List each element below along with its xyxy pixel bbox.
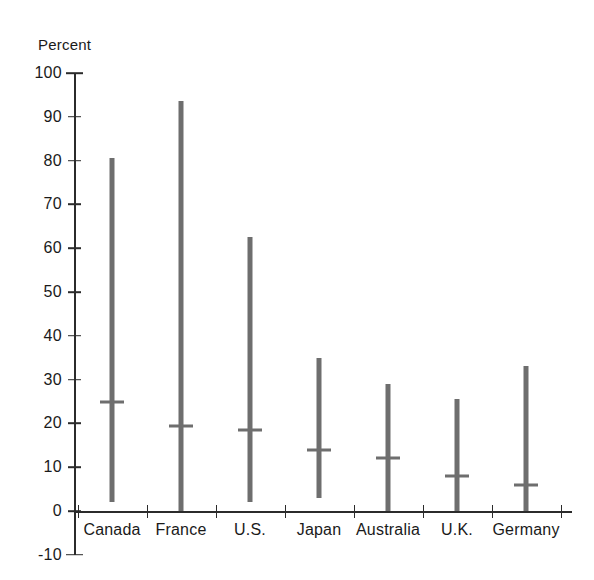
range-bar xyxy=(524,366,529,511)
range-bar xyxy=(386,384,391,511)
median-marker xyxy=(445,474,469,477)
x-axis-category-label: Japan xyxy=(297,521,342,539)
y-axis-tick-label: 10 xyxy=(16,458,62,476)
range-bar xyxy=(110,158,115,502)
x-axis-tick-mark xyxy=(354,505,356,518)
y-axis-tick-label: 40 xyxy=(16,327,62,345)
range-bar xyxy=(455,399,460,511)
y-axis-tick-label: 50 xyxy=(16,283,62,301)
y-axis-tick-mark xyxy=(68,466,81,468)
median-marker xyxy=(376,457,400,460)
x-axis-category-label: U.K. xyxy=(441,521,473,539)
y-axis-tick-mark xyxy=(66,554,83,556)
range-chart: Percent 1009080706050403020100-10 Canada… xyxy=(0,0,594,580)
y-axis-tick-mark xyxy=(66,72,83,74)
x-axis-category-label: Australia xyxy=(356,521,420,539)
range-bar xyxy=(248,237,253,502)
y-axis-tick-label: -10 xyxy=(16,546,62,564)
y-axis-tick-mark xyxy=(68,379,81,381)
range-bar xyxy=(179,101,184,511)
x-axis-tick-mark xyxy=(492,505,494,518)
x-axis-tick-mark xyxy=(423,505,425,518)
y-axis-tick-label: 90 xyxy=(16,108,62,126)
y-axis-tick-mark xyxy=(68,160,81,162)
y-axis-tick-label: 100 xyxy=(16,64,62,82)
y-axis-tick-mark xyxy=(68,204,81,206)
y-axis-tick-label: 60 xyxy=(16,239,62,257)
x-axis-tick-mark xyxy=(78,505,80,518)
y-axis-tick-label: 20 xyxy=(16,414,62,432)
y-axis-unit-label: Percent xyxy=(38,36,91,53)
median-marker xyxy=(238,428,262,431)
median-marker xyxy=(514,483,538,486)
x-axis-tick-mark xyxy=(561,505,563,518)
x-axis-category-label: France xyxy=(156,521,207,539)
y-axis-tick-mark xyxy=(68,423,81,425)
y-axis-tick-mark xyxy=(68,247,81,249)
y-axis-tick-mark xyxy=(68,291,81,293)
y-axis-tick-label: 0 xyxy=(16,502,62,520)
y-axis-tick-mark xyxy=(68,335,81,337)
x-axis-category-label: U.S. xyxy=(234,521,266,539)
median-marker xyxy=(307,448,331,451)
x-axis-category-label: Canada xyxy=(83,521,140,539)
x-axis-tick-mark xyxy=(147,505,149,518)
y-axis-tick-mark xyxy=(68,116,81,118)
x-axis-tick-mark xyxy=(216,505,218,518)
y-axis-tick-label: 30 xyxy=(16,371,62,389)
y-axis-line xyxy=(74,73,76,555)
median-marker xyxy=(100,400,124,403)
y-axis-tick-label: 70 xyxy=(16,195,62,213)
y-axis-tick-label: 80 xyxy=(16,152,62,170)
x-axis-line xyxy=(74,511,572,513)
median-marker xyxy=(169,424,193,427)
x-axis-category-label: Germany xyxy=(492,521,559,539)
range-bar xyxy=(317,358,322,498)
x-axis-tick-mark xyxy=(285,505,287,518)
